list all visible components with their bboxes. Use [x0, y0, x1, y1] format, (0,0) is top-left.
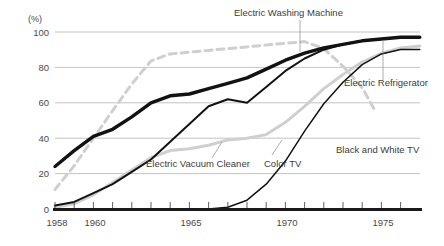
- y-axis-ticks: 100 80 60 40 20 0: [33, 27, 49, 215]
- x-tick-label-1960: 1960: [84, 217, 105, 228]
- label-black-and-white-tv: Black and White TV: [336, 144, 420, 155]
- label-color-tv: Color TV: [264, 158, 302, 169]
- label-electric-washing-machine: Electric Washing Machine: [234, 7, 343, 18]
- chart-container: 100 80 60 40 20 0 (%): [0, 0, 444, 246]
- leader-color-tv: [272, 140, 282, 155]
- x-tick-label-1965: 1965: [180, 217, 201, 228]
- y-tick-label-20: 20: [38, 168, 49, 179]
- x-tick-label-1975: 1975: [372, 217, 393, 228]
- x-tick-label-1970: 1970: [276, 217, 297, 228]
- line-chart: 100 80 60 40 20 0 (%): [0, 0, 444, 246]
- label-electric-vacuum-cleaner: Electric Vacuum Cleaner: [146, 158, 250, 169]
- y-tick-label-80: 80: [38, 62, 49, 73]
- y-axis-unit-label: (%): [28, 14, 42, 24]
- label-electric-refrigerator: Electric Refrigerator: [344, 77, 428, 88]
- y-tick-label-40: 40: [38, 133, 49, 144]
- y-tick-label-100: 100: [33, 27, 49, 38]
- y-tick-label-60: 60: [38, 97, 49, 108]
- x-axis-tickmarks: [55, 202, 401, 208]
- x-axis-ticks: 1958 1960 1965 1970 1975: [46, 217, 393, 228]
- series-electric-vacuum-cleaner: [55, 46, 420, 207]
- y-tick-label-0: 0: [44, 204, 49, 215]
- x-tick-label-1958: 1958: [46, 217, 67, 228]
